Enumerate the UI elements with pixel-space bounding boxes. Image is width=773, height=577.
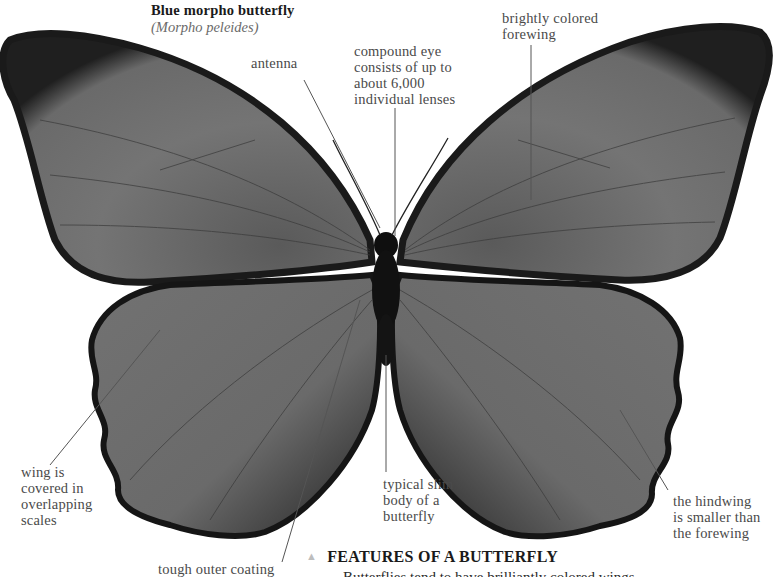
right-forewing [400,27,769,281]
label-coating: tough outer coating [158,561,275,577]
label-body: typical slim body of a butterfly [383,476,453,524]
label-wing-scales: wing is covered in overlapping scales [21,464,92,528]
label-forewing: brightly colored forewing [502,10,598,42]
figure-title: Blue morpho butterfly [151,2,295,19]
section-heading: ▲FEATURES OF A BUTTERFLY [306,548,558,566]
left-hindwing [91,275,380,536]
label-antenna: antenna [251,55,298,71]
section-body-text: Butterflies tend to have brilliantly col… [343,566,635,577]
label-hindwing: the hindwing is smaller than the forewin… [673,493,761,541]
triangle-marker-icon: ▲ [306,550,317,562]
section-heading-text: FEATURES OF A BUTTERFLY [327,548,558,565]
figure-subtitle: (Morpho peleides) [151,19,259,36]
butterfly-figure: Blue morpho butterfly (Morpho peleides) … [0,0,773,577]
label-compound-eye: compound eye consists of up to about 6,0… [354,43,455,107]
